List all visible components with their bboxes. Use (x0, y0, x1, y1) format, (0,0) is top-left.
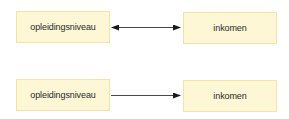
edges (0, 0, 289, 119)
